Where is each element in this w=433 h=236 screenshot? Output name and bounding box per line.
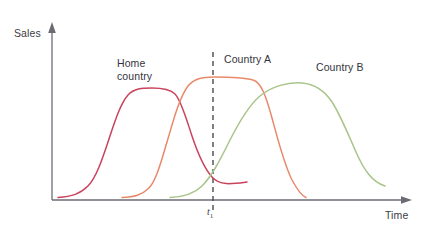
t1-marker-label: t1 (207, 206, 213, 220)
x-axis (52, 196, 412, 204)
x-axis-label: Time (385, 209, 408, 221)
series-label-country-a: Country A (224, 53, 271, 66)
series-label-home-line2: country (117, 70, 152, 82)
chart-plot-area (0, 0, 433, 236)
y-axis-label: Sales (14, 27, 41, 39)
y-axis (48, 22, 56, 200)
y-axis-arrowhead (48, 22, 56, 33)
x-axis-arrowhead (401, 196, 412, 204)
series-line-home-country (58, 88, 247, 198)
series-label-country-b: Country B (316, 61, 364, 74)
series-label-home-line1: Home (117, 57, 145, 69)
series-label-home-country: Homecountry (117, 57, 152, 83)
t1-subscript: 1 (210, 212, 214, 220)
product-life-cycle-chart: Sales Time t1 Homecountry Country A Coun… (0, 0, 433, 236)
